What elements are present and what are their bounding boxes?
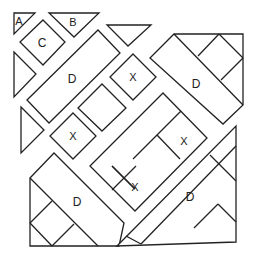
triangle-top-middle [107,25,151,46]
label-d-lower-left: D [73,195,82,209]
label-a: A [15,15,23,27]
label-x-top: X [129,71,137,83]
label-d-upper-right: D [192,77,201,91]
label-b: B [69,16,76,28]
piece-x-top: X [110,54,156,100]
square-blank-center-left [78,84,126,131]
triangle-left-upper [14,52,36,97]
label-x-left: X [69,130,77,142]
label-c: C [38,36,47,50]
piece-c-square: C [20,20,65,65]
label-x-center-bottom: X [131,181,139,193]
label-d-upper-left: D [68,72,77,86]
label-d-lower-right: D [186,190,195,204]
quilt-diagram: A B C D X X D [0,0,254,256]
piece-x-left: X [50,113,96,159]
label-x-center-right: X [180,135,188,147]
